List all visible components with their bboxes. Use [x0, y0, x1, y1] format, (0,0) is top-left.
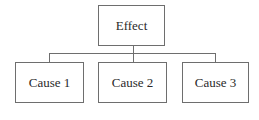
connector-cause-2 [133, 53, 134, 62]
cause-node-1: Cause 1 [15, 62, 84, 103]
cause-node-3: Cause 3 [182, 62, 249, 103]
cause-node-2: Cause 2 [98, 62, 167, 103]
cause-label-2: Cause 2 [112, 75, 154, 91]
connector-cause-3 [215, 53, 216, 62]
cause-label-1: Cause 1 [29, 75, 71, 91]
effect-label: Effect [116, 18, 148, 34]
cause-label-3: Cause 3 [195, 75, 237, 91]
effect-node: Effect [98, 5, 165, 46]
connector-cause-1 [49, 53, 50, 62]
